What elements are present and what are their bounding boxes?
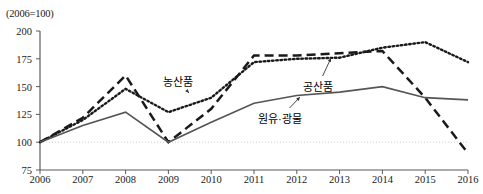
series-annotation-label: 공산품 [303, 78, 333, 94]
x-axis-tick-label: 2011 [232, 174, 276, 185]
x-axis-tick-label: 2008 [104, 174, 148, 185]
x-axis-tick-label: 2013 [318, 174, 362, 185]
x-axis-tick-label: 2015 [403, 174, 447, 185]
x-axis-tick-label: 2006 [18, 174, 62, 185]
x-axis-tick-label: 2014 [360, 174, 404, 185]
x-axis-tick-label: 2010 [189, 174, 233, 185]
series-annotation-label: 원유·광물 [258, 110, 302, 126]
y-axis-tick-label: 200 [2, 26, 32, 37]
y-axis-tick-label: 175 [2, 53, 32, 64]
chart-plot-area [0, 0, 483, 194]
chart-container: (2006=100) 75100125150175200 20062007200… [0, 0, 483, 194]
x-axis-tick-label: 2016 [446, 174, 483, 185]
data-series-group [40, 42, 468, 153]
annotation-arrowhead [185, 89, 189, 93]
series-annotation-label: 농산품 [163, 73, 193, 89]
y-axis-tick-label: 150 [2, 81, 32, 92]
y-axis-tick-label: 100 [2, 137, 32, 148]
series-line-1 [40, 51, 468, 153]
x-axis-tick-label: 2012 [275, 174, 319, 185]
x-axis-tick-label: 2009 [146, 174, 190, 185]
x-axis-tick-label: 2007 [61, 174, 105, 185]
series-line-2 [40, 87, 468, 143]
axis-lines-group [36, 31, 468, 174]
y-axis-tick-label: 125 [2, 109, 32, 120]
